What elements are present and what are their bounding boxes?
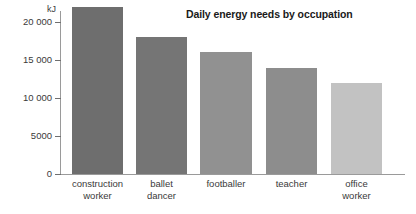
bar <box>136 37 187 174</box>
bar <box>72 7 123 174</box>
bar <box>200 52 252 174</box>
bars-layer <box>0 0 416 174</box>
y-tick-mark <box>55 174 61 175</box>
bar <box>266 68 317 174</box>
bar-chart: Daily energy needs by occupation kJ 0500… <box>0 0 416 214</box>
x-axis-category-label: office worker <box>317 178 396 201</box>
bar <box>331 83 382 174</box>
x-axis-line <box>60 174 405 175</box>
